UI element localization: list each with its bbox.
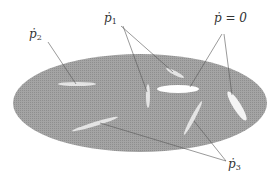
label-p2-base: ṗ: [29, 27, 37, 41]
label-p1-base: ṗ: [104, 11, 112, 25]
label-p2: ṗ2: [29, 28, 42, 42]
label-p3-sub: 3: [236, 163, 241, 172]
label-p3: ṗ3: [228, 158, 241, 172]
label-p1-sub: 1: [112, 17, 117, 26]
label-p1: ṗ1: [104, 12, 117, 26]
label-p3-base: ṗ: [228, 157, 236, 171]
label-p-zero: ṗ = 0: [214, 12, 247, 24]
diagram-canvas: [0, 0, 277, 177]
label-p2-sub: 2: [37, 33, 42, 42]
leaf-p2: [58, 82, 96, 86]
leaf-p0-a: [157, 85, 199, 93]
phase-region: [13, 54, 267, 152]
leaf-p1-b: [146, 84, 150, 108]
